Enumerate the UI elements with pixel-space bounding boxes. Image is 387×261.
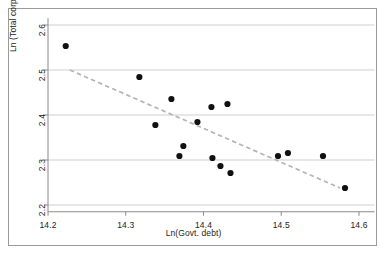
y-tick-label: 2.5 [37,69,47,89]
data-point [176,153,182,159]
x-axis-label: Ln(Govt. debt) [0,228,387,238]
data-point [152,122,158,128]
data-point [224,101,230,107]
data-points [63,43,348,191]
trendline [70,70,340,188]
data-point [342,185,348,191]
data-point [275,153,281,159]
data-point [320,153,326,159]
y-tick-label: 2.4 [37,114,47,134]
chart-figure: 14.214.314.414.514.62.22.32.42.52.6 Ln (… [0,0,387,261]
y-tick-label: 2.2 [37,204,47,224]
data-point [208,104,214,110]
data-point [168,96,174,102]
y-axis-label: Ln (Total corporate debt) [8,0,18,52]
data-point [194,119,200,125]
data-point [227,170,233,176]
data-point [285,150,291,156]
data-point [136,74,142,80]
gridlines [48,25,375,205]
data-point [217,163,223,169]
data-point [180,143,186,149]
data-point [63,43,69,49]
y-tick-label: 2.6 [37,24,47,44]
tick-marks [44,25,359,216]
data-point [209,155,215,161]
y-tick-label: 2.3 [37,159,47,179]
